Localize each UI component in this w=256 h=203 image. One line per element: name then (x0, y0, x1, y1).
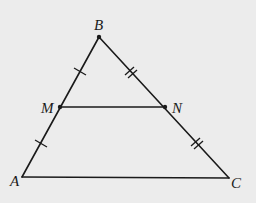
label-M: M (40, 100, 55, 116)
point-N (163, 105, 167, 109)
triangle-diagram: B M N A C (0, 0, 256, 203)
diagram-canvas: B M N A C (0, 0, 256, 203)
label-N: N (171, 100, 183, 116)
side-CA (22, 177, 229, 178)
label-B: B (94, 17, 103, 33)
point-B (97, 35, 101, 39)
label-A: A (9, 173, 20, 189)
label-C: C (231, 175, 242, 191)
point-M (58, 105, 62, 109)
tick-mark-BM (74, 68, 86, 75)
